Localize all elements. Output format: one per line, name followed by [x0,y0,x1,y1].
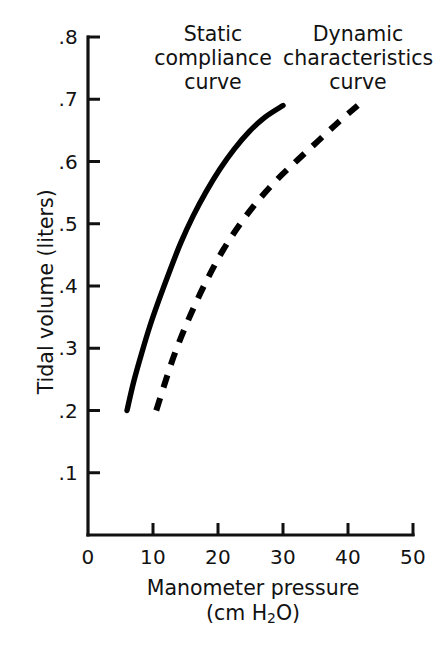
x-axis-tick-label: 40 [318,547,378,567]
x-axis-title-line1: Manometer pressure [147,576,360,600]
data-curves [127,105,358,410]
x-axis-title-line2: (cm H2O) [88,601,418,627]
annotation-static-line3: curve [143,70,283,94]
x-axis-tick-label: 10 [123,547,183,567]
x-axis-tick-label: 50 [383,547,443,567]
x-axis-tick-label: 20 [188,547,248,567]
annotation-dynamic-line1: Dynamic [279,22,437,46]
annotation-dynamic-line3: curve [279,70,437,94]
x-axis-title: Manometer pressure (cm H2O) [88,576,418,627]
y-axis-title: Tidal volume (liters) [35,142,59,442]
annotation-dynamic-characteristics-curve: Dynamic characteristics curve [279,22,437,95]
x-axis-title-unit-post: O) [276,601,300,625]
annotation-dynamic-line2: characteristics [279,46,437,70]
chart-figure: .1.2.3.4.5.6.7.8 01020304050 Tidal volum… [0,0,448,645]
annotation-static-compliance-curve: Static compliance curve [143,22,283,95]
axis-lines [88,37,413,535]
y-axis-tick-label: .8 [26,27,78,47]
x-axis-tick-label: 0 [58,547,118,567]
annotation-static-line1: Static [143,22,283,46]
annotation-static-line2: compliance [143,46,283,70]
curve-static-compliance-curve [127,105,283,410]
curve-dynamic-characteristics-curve [156,105,358,410]
x-axis-title-unit-subscript: 2 [267,610,276,626]
y-axis-tick-label: .1 [26,463,78,483]
y-axis-tick-label: .7 [26,89,78,109]
x-axis-tick-label: 30 [253,547,313,567]
x-axis-title-unit-pre: (cm H [206,601,267,625]
